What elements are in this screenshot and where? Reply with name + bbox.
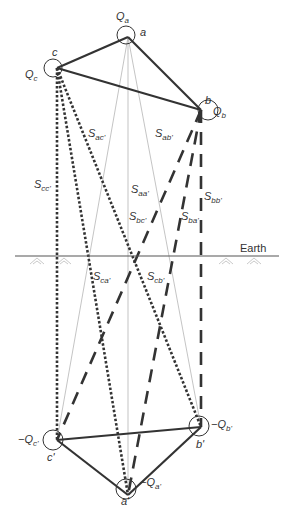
distance-label-cb-prime: Scb' [147,270,165,285]
thin-distance-lines [57,37,201,495]
line-bc-prime [57,110,201,440]
distance-label-ab-prime: Sab' [155,127,173,142]
point-label-c: c [52,46,58,58]
charge-label-b-prime: −Qb' [211,418,232,433]
point-label-a-prime: a' [121,495,130,507]
distance-label-ca-prime: Sca' [93,270,111,285]
conductor-a-circle [117,26,135,44]
distance-label-ba-prime: Sba' [181,210,199,225]
point-label-b-prime: b' [196,438,205,450]
line-ac-prime [57,37,128,440]
distance-label-aa-prime: Saa' [131,183,149,198]
conductor-image-diagram: Earth Qa a c Qc b Qb −Qc' c' −Qb' b' −Qa… [0,0,291,507]
charge-label-a: Qa [116,10,130,25]
line-ab-prime [128,37,201,427]
charge-label-c: Qc [25,68,38,83]
point-label-b: b [205,94,211,106]
distance-label-bc-prime: Sbc' [129,210,147,225]
line-cb-prime [57,68,201,427]
earth-hatch-icons [30,258,261,264]
earth-label: Earth [240,242,266,254]
point-label-a: a [140,26,146,38]
charge-label-a-prime: −Qa' [140,476,161,491]
distance-label-ac-prime: Sac' [88,127,106,142]
conductor-triangle [57,37,201,110]
distance-label-bb-prime: Sbb' [204,190,222,205]
charge-label-c-prime: −Qc' [18,433,39,448]
dotted-distance-lines [57,68,201,495]
point-label-c-prime: c' [47,451,56,463]
distance-label-cc-prime: Scc' [34,178,51,193]
